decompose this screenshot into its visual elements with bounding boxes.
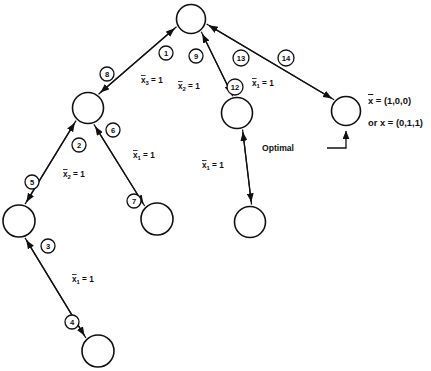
label-x1-eq-1-right: x1 = 1 [252, 79, 274, 90]
optimal-callout-leader [327, 131, 346, 148]
label-x2-eq-1-left: x2 = 1 [63, 170, 85, 181]
edge-badge-5: 5 [25, 175, 39, 189]
edge-badge-label: 9 [194, 52, 198, 61]
optimal-solution-x: or x = (0,1,1) [368, 117, 423, 128]
node-root[interactable] [177, 5, 206, 34]
optimal-callout-label: Optimal [262, 143, 294, 153]
edge-badge-label: 13 [237, 54, 245, 63]
tree-diagram-canvas: 182534679121314 x3 = 1 x2 = 1 x1 = 1 x1 … [0, 0, 431, 371]
node-left-lower[interactable] [3, 205, 35, 237]
edge-badge-label: 14 [282, 54, 291, 63]
edge-badge-6: 6 [106, 123, 120, 137]
node-left-upper[interactable] [73, 93, 104, 124]
node-left-right[interactable] [141, 203, 173, 235]
label-x3-eq-1: x3 = 1 [141, 76, 163, 87]
badges-layer: 182534679121314 [25, 46, 294, 329]
node-mid-lower[interactable] [235, 207, 266, 238]
edge-badge-1: 1 [159, 46, 173, 60]
edge-badge-label: 6 [111, 126, 115, 135]
edge-badge-2: 2 [72, 138, 86, 152]
edge-badge-12: 12 [227, 79, 243, 95]
branch-and-bound-figure: 182534679121314 x3 = 1 x2 = 1 x1 = 1 x1 … [0, 0, 431, 371]
edge-badge-label: 3 [46, 242, 50, 251]
optimal-solution-xbar: x = (1,0,0) [368, 95, 411, 106]
label-x1-eq-1-center: x1 = 1 [202, 161, 224, 172]
edge-badge-7: 7 [127, 194, 141, 208]
edge-badge-4: 4 [65, 315, 79, 329]
node-optimal[interactable] [332, 97, 361, 126]
edge-badge-14: 14 [278, 50, 294, 66]
edge-5 [25, 123, 74, 204]
edge-8 [99, 29, 175, 94]
edge-badge-8: 8 [100, 67, 114, 81]
nodes-layer [3, 5, 361, 368]
edge-11 [243, 132, 252, 204]
edge-badge-3: 3 [41, 239, 55, 253]
edge-badge-label: 8 [105, 70, 109, 79]
label-x1-eq-1-mid: x1 = 1 [133, 151, 155, 162]
node-mid-upper[interactable] [222, 98, 253, 129]
edge-badge-label: 7 [132, 197, 136, 206]
label-x1-eq-1-bottom: x1 = 1 [72, 275, 94, 286]
node-left-bottom[interactable] [82, 335, 114, 367]
label-x2-eq-1-mid: x2 = 1 [178, 82, 200, 93]
edge-badge-9: 9 [189, 49, 203, 63]
edge-badge-13: 13 [233, 50, 249, 66]
edge-badge-label: 2 [77, 141, 81, 150]
edges-layer [25, 24, 334, 338]
edge-badge-label: 12 [231, 83, 239, 92]
